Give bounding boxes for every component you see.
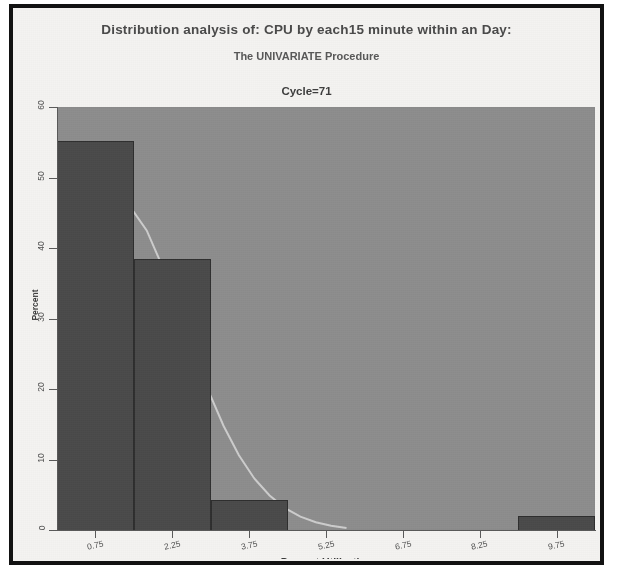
x-axis-tick-label: 9.75: [537, 540, 577, 550]
sas-output-page: Distribution analysis of: CPU by each15 …: [15, 10, 598, 559]
y-axis-tick: [49, 460, 57, 461]
x-axis-tick: [403, 531, 404, 538]
y-axis-tick: [49, 248, 57, 249]
x-axis-tick: [249, 531, 250, 538]
y-axis-tick-label-text: 0: [38, 526, 48, 531]
x-axis-tick: [480, 531, 481, 538]
histogram-bar: [134, 259, 211, 530]
x-axis-tick-label: 8.25: [460, 540, 500, 550]
histogram-bar: [57, 141, 134, 530]
histogram-plot: 0102030405060 0.752.253.755.256.758.259.…: [15, 10, 598, 559]
histogram-bar: [211, 500, 288, 530]
x-axis-tick-label-text: 0.75: [86, 538, 104, 551]
y-axis-tick-label: 10: [17, 453, 45, 463]
y-axis-tick-label: 40: [17, 241, 45, 251]
y-axis-title: Percent: [30, 275, 40, 335]
x-axis-tick-label-text: 5.25: [317, 538, 335, 551]
y-axis-tick-label-text: 10: [35, 453, 45, 462]
x-axis-tick: [557, 531, 558, 538]
x-axis-tick-label-text: 2.25: [163, 538, 181, 551]
x-axis-tick-label: 2.25: [152, 540, 192, 550]
screenshot-root: Distribution analysis of: CPU by each15 …: [0, 0, 624, 569]
y-axis-tick-label: 20: [17, 382, 45, 392]
y-axis-tick-label: 50: [17, 171, 45, 181]
y-axis-tick-label-text: 20: [35, 382, 45, 391]
x-axis-tick: [326, 531, 327, 538]
y-axis-tick: [49, 389, 57, 390]
y-axis-tick-label-text: 50: [35, 171, 45, 180]
x-axis-tick-label: 6.75: [383, 540, 423, 550]
x-axis-tick: [172, 531, 173, 538]
y-axis-tick: [49, 178, 57, 179]
histogram-bar: [518, 516, 595, 530]
y-axis-tick-label: 0: [17, 523, 45, 533]
x-axis-tick-label: 0.75: [75, 540, 115, 550]
x-axis-tick-label-text: 9.75: [547, 538, 565, 551]
x-axis-tick-label-text: 8.25: [471, 538, 489, 551]
y-axis-tick: [49, 319, 57, 320]
y-axis-tick-label: 60: [17, 100, 45, 110]
y-axis-tick: [49, 107, 57, 108]
x-axis-tick-label: 3.75: [229, 540, 269, 550]
x-axis-tick: [95, 531, 96, 538]
x-axis-tick-label-text: 3.75: [240, 538, 258, 551]
y-axis-tick: [49, 530, 57, 531]
x-axis-title: Percent Utilization: [57, 556, 596, 559]
plot-area: [57, 107, 595, 530]
x-axis-tick-label: 5.25: [306, 540, 346, 550]
y-axis-tick-label-text: 40: [35, 241, 45, 250]
x-axis-tick-label-text: 6.75: [394, 538, 412, 551]
y-axis-tick-label-text: 60: [35, 100, 45, 109]
y-axis-line: [57, 107, 58, 531]
